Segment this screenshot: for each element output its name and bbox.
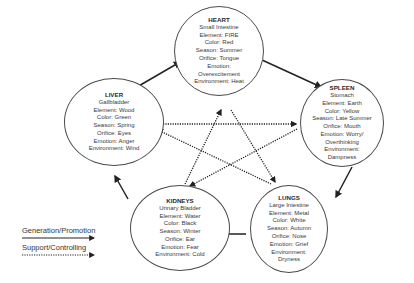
lungs-title: LUNGS — [278, 194, 300, 202]
liver-line: Element: Wood — [94, 107, 135, 115]
spleen-line: Stomach — [330, 92, 354, 100]
lungs-line: Orifice: Nose — [272, 233, 307, 241]
heart-line: Small Intestine — [199, 24, 238, 32]
spleen-line: Element: Earth — [322, 100, 362, 108]
heart-line: Color: Red — [205, 39, 234, 47]
node-spleen: SPLEEN Stomach Element: Earth Color: Yel… — [300, 79, 384, 167]
kidneys-line: Environment: Cold — [155, 251, 204, 259]
dotted-spleen-to-kidneys — [190, 129, 297, 186]
lungs-line: Emotion: Grief — [270, 241, 308, 249]
liver-line: Gallbladder — [99, 99, 130, 107]
dotted-heart-to-lungs — [231, 110, 275, 182]
lungs-line: Environment: — [271, 249, 306, 257]
kidneys-line: Orifice: Ear — [165, 236, 195, 244]
legend-support-label: Support/Controlling — [22, 243, 86, 252]
heart-title: HEART — [208, 16, 229, 24]
spleen-line: Emotion: Worry/ — [321, 131, 364, 139]
liver-line: Orifice: Eyes — [97, 130, 131, 138]
spleen-line: Environment: — [324, 146, 359, 154]
kidneys-title: KIDNEYS — [166, 197, 194, 205]
liver-title: LIVER — [105, 91, 123, 99]
legend-generation-label: Generation/Promotion — [22, 226, 95, 235]
spleen-line: Color: Yellow — [325, 108, 360, 116]
lungs-line: Element: Metal — [269, 210, 309, 218]
arrow-heart-to-spleen — [262, 60, 321, 87]
kidneys-line: Season: Winter — [159, 228, 200, 236]
node-liver: LIVER Gallbladder Element: Wood Color: G… — [64, 78, 164, 166]
liver-line: Environment: Wind — [89, 145, 140, 153]
kidneys-line: Emotion: Fear — [161, 244, 199, 252]
heart-line: Emotion: — [207, 63, 231, 71]
kidneys-line: Element: Water — [159, 213, 200, 221]
lungs-line: Large Intestine — [269, 202, 309, 210]
lungs-line: Color: White — [272, 217, 305, 225]
spleen-line: Season: Late Summer — [312, 115, 372, 123]
arrow-kidneys-to-liver — [115, 176, 128, 199]
kidneys-line: Urinary Bladder — [159, 205, 201, 213]
dotted-kidneys-to-heart — [185, 110, 221, 184]
lungs-line: Dryness — [278, 256, 300, 264]
heart-line: Element: FIRE — [199, 32, 238, 40]
lungs-line: Season: Autumn — [267, 225, 311, 233]
node-lungs: LUNGS Large Intestine Element: Metal Col… — [250, 185, 328, 273]
liver-line: Color: Green — [97, 114, 131, 122]
spleen-line: Overthinking — [325, 139, 359, 147]
spleen-line: Dampness — [328, 154, 357, 162]
node-heart: HEART Small Intestine Element: FIRE Colo… — [174, 6, 264, 96]
heart-line: Orifice: Tongue — [199, 55, 239, 63]
dotted-lungs-to-liver — [158, 130, 271, 184]
spleen-title: SPLEEN — [330, 84, 355, 92]
kidneys-line: Color: Black — [164, 220, 196, 228]
spleen-line: Orifice: Mouth — [323, 123, 360, 131]
heart-line: Environment: Heat — [194, 78, 244, 86]
arrow-liver-to-heart — [137, 62, 180, 87]
liver-line: Emotion: Anger — [93, 138, 134, 146]
arrow-spleen-to-lungs — [336, 167, 352, 197]
liver-line: Season: Spring — [93, 122, 134, 130]
heart-line: Season: Summer — [196, 47, 242, 55]
heart-line: Overexcitement — [198, 71, 240, 79]
node-kidneys: KIDNEYS Urinary Bladder Element: Water C… — [130, 185, 230, 271]
